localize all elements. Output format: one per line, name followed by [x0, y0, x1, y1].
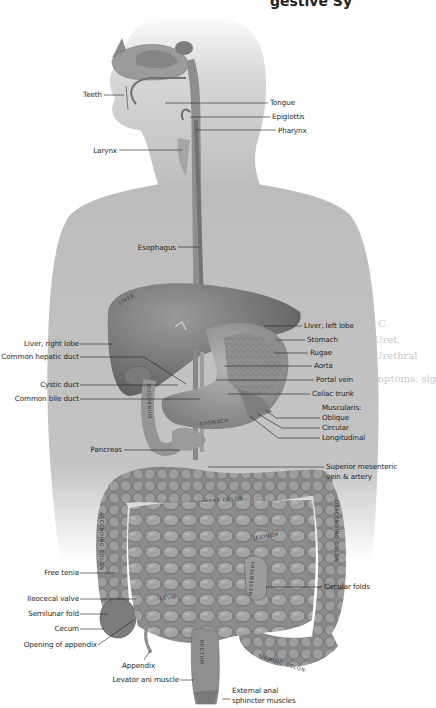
svg-text:DUODENUM: DUODENUM: [146, 384, 153, 419]
cecum: [100, 598, 136, 638]
label-muscularis: Muscularis:: [322, 403, 361, 412]
label-cystic-duct: Cystic duct: [0, 380, 79, 389]
label-circular-folds: Circular folds: [324, 582, 370, 591]
label-epiglottis: Epiglottis: [272, 112, 304, 121]
label-liver-left-lobe: Liver, left lobe: [304, 321, 354, 330]
label-celiac-trunk: Celiac trunk: [312, 389, 354, 398]
label-oblique: Oblique: [322, 413, 349, 422]
label-common-hepatic-duct: Common hepatic duct: [0, 352, 79, 361]
label-cecum: Cecum: [0, 624, 79, 633]
label-aorta: Aorta: [314, 361, 333, 370]
label-superior-mesenteric-line1: Superior mesenteric: [326, 462, 397, 471]
label-external-anal-line2: sphincter muscles: [232, 696, 296, 705]
label-free-tenia: Free tenia: [0, 568, 79, 577]
label-liver-right-lobe: Liver, right lobe: [0, 339, 79, 348]
label-pancreas: Pancreas: [70, 445, 122, 454]
label-pharynx: Pharynx: [278, 126, 307, 135]
label-levator-ani-muscle: Levator ani muscle: [100, 675, 179, 684]
label-external-anal-line1: External anal: [232, 686, 278, 695]
svg-text:DESCENDING COLON: DESCENDING COLON: [334, 500, 340, 562]
label-tongue: Tongue: [270, 98, 295, 107]
label-teeth: Teeth: [70, 90, 102, 99]
svg-text:ASCENDING COLON: ASCENDING COLON: [99, 512, 105, 570]
label-semilunar-fold: Semilunar fold: [0, 609, 79, 618]
label-esophagus: Esophagus: [120, 243, 176, 252]
label-superior-mesenteric-line2: vein & artery: [326, 472, 372, 481]
label-circular: Circular: [322, 423, 349, 432]
label-longitudinal: Longitudinal: [322, 433, 365, 442]
label-rugae: Rugae: [310, 348, 332, 357]
label-larynx: Larynx: [70, 146, 117, 155]
label-opening-of-appendix: Opening of appendix: [0, 640, 97, 649]
label-appendix: Appendix: [122, 661, 155, 670]
label-ileocecal-valve: Ileocecal valve: [0, 594, 79, 603]
label-common-bile-duct: Common bile duct: [0, 394, 79, 403]
svg-text:ILEUM: ILEUM: [158, 594, 177, 601]
label-stomach: Stomach: [307, 335, 338, 344]
svg-text:RECTUM: RECTUM: [199, 640, 205, 665]
small-intestine: [128, 500, 316, 643]
label-portal-vein: Portal vein: [316, 375, 353, 384]
